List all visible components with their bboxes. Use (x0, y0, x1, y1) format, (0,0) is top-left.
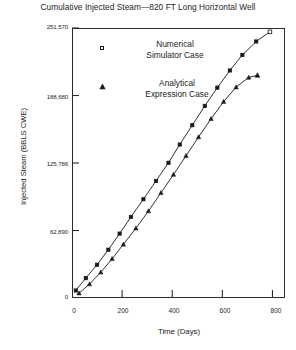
y-tick-label-1: 62,890 (18, 228, 68, 235)
legend-triangle-marker-icon (99, 83, 106, 90)
x-tick-label-1: 200 (111, 307, 135, 314)
legend-label-numerical-line2: Simulator Case (146, 50, 203, 60)
x-tick-label-3: 600 (213, 307, 237, 314)
legend-label-analytical: Analytical Expression Case (112, 78, 242, 99)
chart-title: Cumulative Injected Steam—820 FT Long Ho… (0, 2, 296, 12)
legend-label-analytical-line2: Expression Case (145, 89, 208, 99)
y-tick-label-0: 0 (18, 293, 68, 300)
plot-area (72, 28, 285, 298)
x-axis-title: Time (Days) (72, 327, 286, 336)
x-tick-label-2: 400 (162, 307, 186, 314)
x-tick-label-0: 0 (62, 307, 86, 314)
legend-label-numerical-line1: Numerical (156, 39, 194, 49)
chart-figure: Cumulative Injected Steam—820 FT Long Ho… (0, 0, 296, 350)
y-tick-label-2: 125,786 (18, 160, 68, 167)
y-tick-label-4: 251,570 (18, 23, 68, 30)
legend-label-numerical: Numerical Simulator Case (115, 39, 235, 60)
x-tick-label-4: 800 (264, 307, 288, 314)
legend-label-analytical-line1: Analytical (159, 78, 195, 88)
y-tick-label-3: 188,680 (18, 93, 68, 100)
legend-square-marker-icon (100, 46, 104, 50)
